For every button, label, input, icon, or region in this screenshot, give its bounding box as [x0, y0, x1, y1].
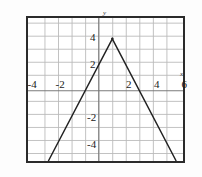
y-tick-label-4: 4 [90, 32, 96, 43]
y-axis-label: y [103, 10, 106, 17]
x-tick-label-4: 4 [154, 79, 160, 90]
x-tick-label--2: -2 [56, 79, 65, 90]
graph-figure: -4 -2 2 4 6 4 2 -2 -4 y x [0, 0, 202, 177]
x-axis-label: x [180, 71, 183, 78]
x-tick-label-6: 6 [182, 79, 188, 90]
y-tick-label--2: -2 [87, 112, 96, 123]
plot-area: -4 -2 2 4 6 4 2 -2 -4 y x [26, 16, 185, 163]
y-tick-label--4: -4 [87, 139, 96, 150]
x-tick-label-2: 2 [126, 79, 132, 90]
y-tick-label-2: 2 [90, 59, 96, 70]
x-tick-label--4: -4 [28, 79, 37, 90]
